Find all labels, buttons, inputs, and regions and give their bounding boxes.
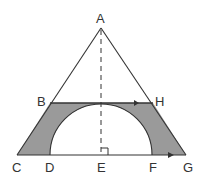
label-D: D bbox=[45, 160, 54, 175]
right-angle-mark bbox=[101, 148, 108, 155]
label-A: A bbox=[96, 11, 105, 26]
label-E: E bbox=[97, 160, 106, 175]
side-AC bbox=[17, 28, 101, 155]
label-F: F bbox=[149, 160, 157, 175]
label-C: C bbox=[12, 160, 21, 175]
side-AG bbox=[101, 28, 186, 155]
label-H: H bbox=[155, 94, 164, 109]
label-B: B bbox=[37, 94, 46, 109]
label-G: G bbox=[183, 160, 193, 175]
geometry-diagram: A B H C D E F G bbox=[0, 0, 202, 179]
